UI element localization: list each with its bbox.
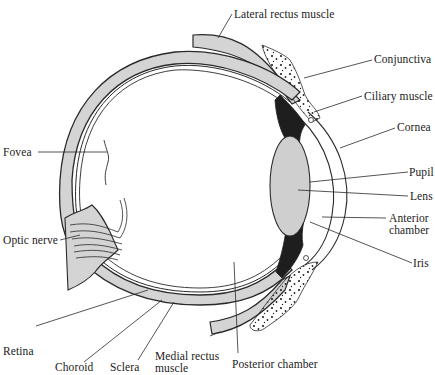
label-sclera: Sclera — [110, 361, 139, 373]
eye-anatomy-diagram: Lateral rectus muscle Conjunctiva Ciliar… — [0, 0, 435, 375]
label-iris: Iris — [413, 257, 429, 269]
label-anterior-chamber-line2: chamber — [389, 224, 429, 236]
label-cornea: Cornea — [397, 121, 431, 133]
label-medial-rectus-line2: muscle — [155, 362, 188, 374]
label-conjunctiva: Conjunctiva — [374, 53, 431, 65]
canal-upper — [309, 118, 314, 123]
label-choroid: Choroid — [55, 361, 93, 373]
label-optic-nerve: Optic nerve — [3, 234, 58, 246]
lens — [270, 136, 310, 236]
label-retina: Retina — [3, 345, 34, 357]
label-anterior-chamber-line1: Anterior — [389, 212, 429, 224]
label-pupil: Pupil — [409, 166, 434, 178]
label-lens: Lens — [410, 190, 433, 202]
fovea — [104, 140, 109, 185]
label-posterior-chamber: Posterior chamber — [232, 358, 318, 370]
canal-lower — [304, 256, 309, 261]
eye-cross-section — [0, 0, 435, 375]
label-ciliary-muscle: Ciliary muscle — [364, 90, 433, 102]
label-fovea: Fovea — [3, 146, 32, 158]
label-medial-rectus-line1: Medial rectus — [155, 350, 219, 362]
label-lateral-rectus-muscle: Lateral rectus muscle — [234, 8, 334, 20]
